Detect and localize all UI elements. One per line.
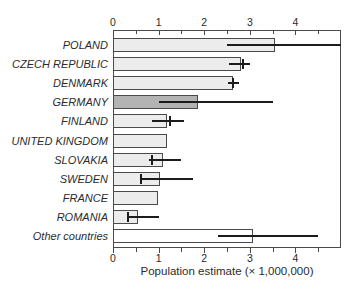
bar-united-kingdom [113, 134, 167, 148]
category-label-romania: ROMANIA [0, 210, 108, 224]
top-axis-minor-tick [136, 30, 137, 34]
bottom-axis-tick-label: 3 [240, 252, 260, 264]
bar-france [113, 191, 158, 205]
error-bar-poland [227, 44, 341, 46]
category-label-denmark: DENMARK [0, 76, 108, 90]
top-axis-major-tick [204, 30, 205, 35]
bottom-axis-minor-tick [136, 248, 137, 252]
bar-denmark [113, 76, 233, 90]
top-axis-tick-label: 4 [285, 16, 305, 28]
top-axis-tick-label: 3 [240, 16, 260, 28]
top-axis-minor-tick [227, 30, 228, 34]
error-bar-finland [152, 120, 184, 122]
population-bar-chart: POLANDCZECH REPUBLICDENMARKGERMANYFINLAN… [0, 0, 358, 288]
error-cap-finland [169, 116, 171, 126]
top-axis-major-tick [113, 30, 114, 35]
category-label-finland: FINLAND [0, 114, 108, 128]
category-label-poland: POLAND [0, 38, 108, 52]
bottom-axis-minor-tick [273, 248, 274, 252]
category-label-sweden: SWEDEN [0, 172, 108, 186]
top-axis-major-tick [295, 30, 296, 35]
bottom-axis-minor-tick [318, 248, 319, 252]
top-axis-minor-tick [318, 30, 319, 34]
category-label-france: FRANCE [0, 191, 108, 205]
bottom-axis-tick-label: 1 [149, 252, 169, 264]
category-label-united-kingdom: UNITED KINGDOM [0, 134, 108, 148]
error-bar-other-countries [218, 235, 318, 237]
error-bar-sweden [140, 178, 192, 180]
error-bar-germany [159, 101, 273, 103]
top-axis-tick-label: 2 [194, 16, 214, 28]
error-cap-denmark [232, 78, 234, 88]
error-bar-czech-republic [229, 63, 250, 65]
bottom-axis-tick-label: 0 [103, 252, 123, 264]
bottom-axis-tick-label: 4 [285, 252, 305, 264]
category-label-germany: GERMANY [0, 95, 108, 109]
bar-czech-republic [113, 57, 241, 71]
bottom-axis-minor-tick [181, 248, 182, 252]
error-cap-romania [127, 212, 129, 222]
top-axis-minor-tick [181, 30, 182, 34]
error-cap-czech-republic [242, 59, 244, 69]
bottom-axis-minor-tick [227, 248, 228, 252]
top-axis-tick-label: 1 [149, 16, 169, 28]
category-label-czech-republic: CZECH REPUBLIC [0, 57, 108, 71]
top-axis-minor-tick [273, 30, 274, 34]
error-bar-romania [127, 216, 159, 218]
error-bar-slovakia [149, 159, 181, 161]
bottom-axis-tick-label: 2 [194, 252, 214, 264]
top-axis-tick-label: 0 [103, 16, 123, 28]
category-label-other-countries: Other countries [0, 229, 108, 243]
error-cap-sweden [140, 174, 142, 184]
category-label-slovakia: SLOVAKIA [0, 153, 108, 167]
top-axis-major-tick [159, 30, 160, 35]
top-axis-major-tick [250, 30, 251, 35]
error-cap-slovakia [151, 155, 153, 165]
x-axis-title: Population estimate (× 1,000,000) [113, 264, 341, 278]
